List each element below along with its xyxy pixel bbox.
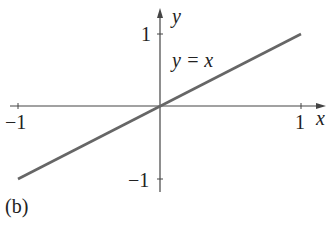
y-axis-label: y [172,6,181,26]
y-tick-label-1: 1 [141,24,151,44]
x-tick-label-1: 1 [295,112,305,132]
line-annotation: y = x [172,50,213,70]
x-tick-label-neg1: −1 [5,112,26,132]
y-axis-arrow-icon [157,8,163,18]
x-axis-label: x [316,108,325,128]
plot-area [0,0,329,226]
y-tick-label-neg1: −1 [128,170,149,190]
panel-label: (b) [5,196,28,216]
